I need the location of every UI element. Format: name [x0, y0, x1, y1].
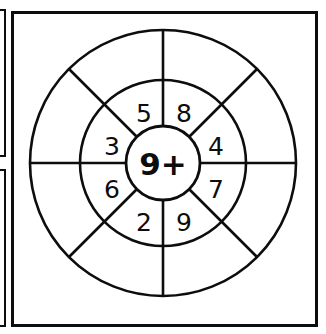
sector-number-bottom-right: 9: [176, 208, 192, 237]
sector-number-right-lower: 7: [208, 175, 224, 204]
sector-number-right-upper: 4: [208, 132, 224, 161]
hub-label: 9+: [139, 146, 187, 182]
sector-number-bottom-left: 2: [136, 208, 152, 237]
sector-number-left-lower: 6: [104, 175, 120, 204]
worksheet-page: 9+ 5 8 3 4 6 7 2 9: [0, 0, 326, 334]
sector-number-left-upper: 3: [104, 132, 120, 161]
math-fact-wheel: 9+ 5 8 3 4 6 7 2 9: [0, 0, 326, 334]
sector-number-top-right: 8: [176, 99, 192, 128]
sector-number-top-left: 5: [136, 99, 152, 128]
